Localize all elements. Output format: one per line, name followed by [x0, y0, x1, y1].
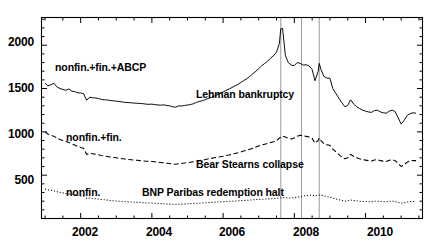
y-tick-label-500: 500 [0, 173, 34, 187]
commercial-paper-outstanding-chart: 2000 1500 1000 500 2002 2004 2006 2008 2… [0, 0, 438, 247]
series-line-0 [45, 28, 416, 124]
annotation-bear-stearns-collapse: Bear Stearns collapse [196, 158, 304, 170]
x-tick-label-2002: 2002 [62, 225, 108, 239]
x-tick-label-2006: 2006 [209, 225, 255, 239]
plot-area [0, 0, 438, 247]
annotation-lehman-bankruptcy: Lehman bankruptcy [196, 88, 294, 100]
series-group [45, 28, 416, 204]
series-label-nonfin: nonfin. [66, 186, 100, 198]
x-tick-label-2008: 2008 [283, 225, 329, 239]
series-label-nonfin-fin-abcp: nonfin.+fin.+ABCP [55, 61, 146, 73]
y-tick-label-1000: 1000 [0, 127, 34, 141]
y-tick-label-1500: 1500 [0, 81, 34, 95]
annotation-bnp-paribas-redemption-halt: BNP Paribas redemption halt [142, 186, 284, 198]
event-lines-group [281, 18, 319, 219]
x-tick-label-2004: 2004 [136, 225, 182, 239]
series-label-nonfin-fin: nonfin.+fin. [66, 131, 122, 143]
y-tick-label-2000: 2000 [0, 35, 34, 49]
x-tick-label-2010: 2010 [357, 225, 403, 239]
